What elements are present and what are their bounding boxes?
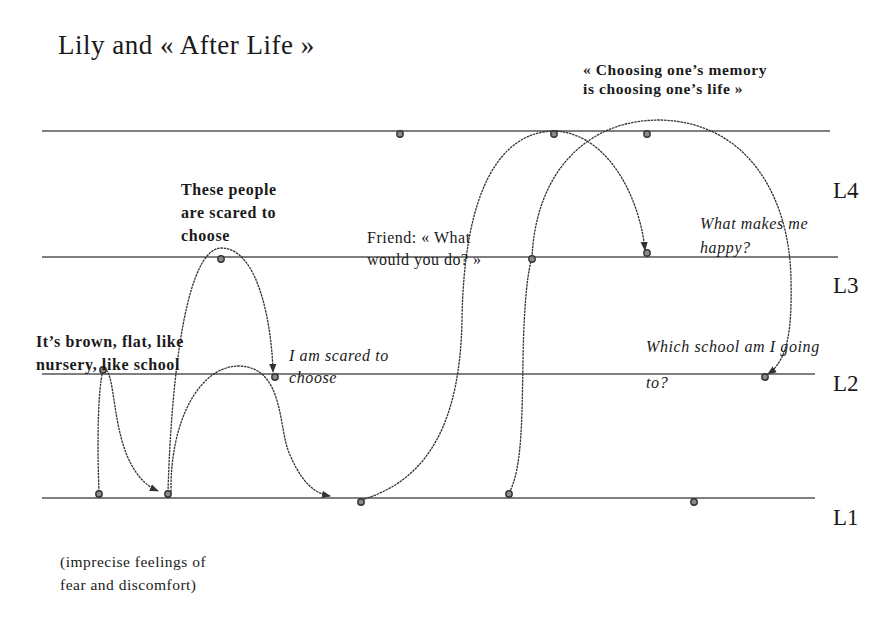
point — [529, 256, 535, 262]
annotation-brown-flat: It’s brown, flat, like nursery, like sch… — [36, 330, 184, 376]
diagram-title: Lily and « After Life » — [58, 30, 315, 61]
annotation-what-makes: What makes me happy? — [700, 212, 808, 260]
point — [506, 491, 512, 497]
level-label-l1: L1 — [833, 505, 859, 531]
path-l1-to-l2-a — [98, 370, 103, 492]
path-l2-to-l1-a — [106, 370, 158, 491]
path-l1-to-l3-b — [509, 258, 532, 493]
path-l4-to-l3 — [556, 131, 645, 250]
annotation-imprecise: (imprecise feelings of fear and discomfo… — [60, 550, 206, 596]
annotation-scared-people: These people are scared to choose — [181, 178, 277, 247]
point — [272, 374, 278, 380]
point — [644, 131, 650, 137]
point — [644, 250, 650, 256]
point — [358, 499, 364, 505]
point — [218, 256, 224, 262]
level-label-l3: L3 — [833, 273, 859, 299]
level-label-l2: L2 — [833, 371, 859, 397]
annotation-i-am-scared: I am scared to choose — [289, 345, 389, 389]
annotation-which-school: Which school am I going to? — [646, 329, 820, 401]
annotation-friend: Friend: « What would you do? » — [367, 227, 482, 271]
point — [165, 491, 171, 497]
point — [96, 491, 102, 497]
point — [397, 131, 403, 137]
quote-annotation: « Choosing one’s memory is choosing one’… — [583, 60, 767, 98]
point — [691, 499, 697, 505]
level-label-l4: L4 — [833, 178, 859, 204]
point — [551, 131, 557, 137]
